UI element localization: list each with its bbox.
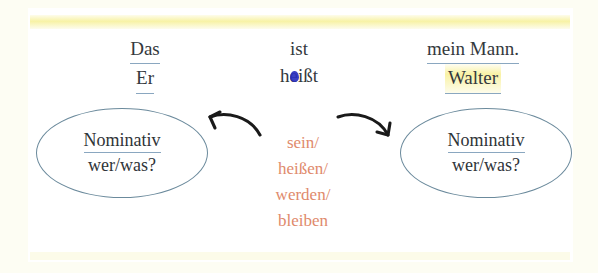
verb-line-1: ist — [224, 36, 374, 62]
verb-heisst: heißt — [280, 62, 318, 90]
verb-item-1: heißen/ — [238, 156, 368, 182]
subject-line-2: Er — [70, 64, 220, 94]
sentence-row: Das Er ist heißt mein Mann. Walter — [28, 36, 573, 98]
top-highlight-band — [30, 15, 570, 29]
case-ellipse-left: Nominativ wer/was? — [36, 108, 208, 198]
grammar-diagram-page: Das Er ist heißt mein Mann. Walter — [0, 0, 598, 273]
case-ellipse-right: Nominativ wer/was? — [400, 108, 572, 198]
subject-column: Das Er — [70, 36, 220, 94]
verb-item-3: bleiben — [238, 208, 368, 234]
subject-line-1: Das — [70, 36, 220, 64]
case-label-nominativ-left: Nominativ — [84, 129, 161, 153]
verb-heisst-text: heißt — [280, 65, 318, 86]
subject-er: Er — [136, 64, 154, 94]
predicate-walter: Walter — [445, 64, 501, 94]
verb-ist: ist — [290, 38, 308, 59]
case-ellipse-left-question: wer/was? — [88, 153, 156, 177]
verb-item-2: werden/ — [238, 182, 368, 208]
predicate-line-1: mein Mann. — [380, 36, 566, 64]
case-ellipse-right-title: Nominativ — [448, 129, 525, 153]
predicate-column: mein Mann. Walter — [380, 36, 566, 94]
predicate-mein-mann: mein Mann. — [427, 36, 519, 64]
arrow-right-icon — [334, 108, 400, 148]
verb-line-2: heißt — [224, 62, 374, 90]
case-ellipse-right-question: wer/was? — [452, 153, 520, 177]
arrow-left-icon — [198, 108, 264, 148]
verb-column: ist heißt — [224, 36, 374, 90]
case-label-nominativ-right: Nominativ — [448, 129, 525, 153]
subject-das: Das — [130, 36, 160, 64]
blue-blob-icon — [290, 71, 299, 82]
case-ellipse-left-title: Nominativ — [84, 129, 161, 153]
bottom-highlight-band — [30, 252, 570, 260]
predicate-line-2: Walter — [380, 64, 566, 94]
